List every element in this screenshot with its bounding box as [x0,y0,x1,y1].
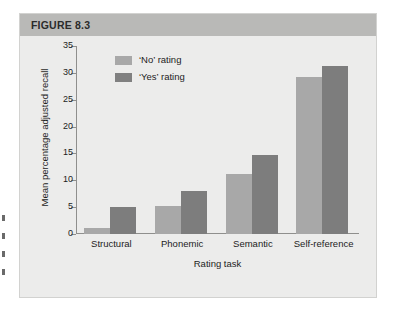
y-axis-tick-label: 25 [63,94,73,104]
legend-label-yes: ‘Yes’ rating [139,71,185,82]
scan-artifact [2,269,5,275]
y-axis-tick-label: 5 [68,201,73,211]
bar-group: Structural [76,46,147,234]
scan-artifact [2,233,5,239]
y-axis-tick-label: 0 [68,228,73,238]
bar [155,206,181,234]
bar [252,155,278,234]
x-axis-title: Rating task [76,258,359,269]
legend-swatch-yes-icon [115,73,132,82]
x-axis-tick-label: Phonemic [147,238,218,249]
y-axis-tick-label: 10 [63,174,73,184]
y-axis-tick-label: 30 [63,67,73,77]
bar [110,207,136,234]
scan-artifact [2,215,5,221]
x-axis-tick-label: Structural [76,238,147,249]
figure-frame: FIGURE 8.3 Mean percentage adjusted reca… [19,13,377,298]
y-axis-tick-label: 35 [63,40,73,50]
x-axis-tick-label: Self-reference [288,238,359,249]
x-axis-tick-label: Semantic [218,238,289,249]
y-axis-tick-label: 15 [63,147,73,157]
bar [181,191,207,234]
legend-swatch-no-icon [115,56,132,65]
y-axis-title: Mean percentage adjusted recall [39,58,50,218]
scan-artifact [2,251,5,257]
chart-area: Mean percentage adjusted recall 05101520… [20,36,376,299]
bar [296,77,322,234]
bar-group: Self-reference [288,46,359,234]
bar [322,66,348,234]
bar [84,228,110,234]
figure-number-label: FIGURE 8.3 [31,19,90,31]
bar [226,174,252,234]
figure-header-band: FIGURE 8.3 [20,14,376,36]
legend-label-no: ‘No’ rating [139,54,181,65]
y-axis-tick-label: 20 [63,121,73,131]
bar-group: Semantic [218,46,289,234]
